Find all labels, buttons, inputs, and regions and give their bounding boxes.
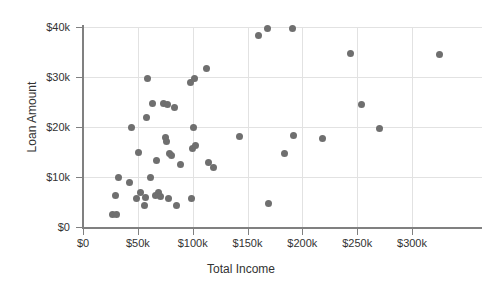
data-point (191, 75, 198, 82)
x-tick-label: $150k (233, 238, 263, 249)
data-point (203, 65, 210, 72)
data-point (358, 101, 365, 108)
gridline-vertical (248, 27, 249, 227)
data-point (265, 200, 272, 207)
y-tick-mark (76, 177, 82, 178)
data-point (115, 174, 122, 181)
data-point (376, 125, 383, 132)
y-axis-spine (82, 25, 84, 229)
y-tick-label: $20k (46, 122, 70, 133)
data-point (157, 193, 164, 200)
data-point (135, 149, 142, 156)
gridline-vertical (302, 27, 303, 227)
data-point (168, 152, 175, 159)
y-tick-label: $30k (46, 72, 70, 83)
data-point (190, 124, 197, 131)
data-point (236, 133, 243, 140)
data-point (143, 114, 150, 121)
data-point (192, 142, 199, 149)
data-point (281, 150, 288, 157)
y-axis-title: Loan Amount (25, 57, 39, 177)
data-point (255, 32, 262, 39)
gridline-vertical (357, 27, 358, 227)
data-point (141, 202, 148, 209)
y-tick-mark (76, 127, 82, 128)
x-tick-label: $100k (178, 238, 208, 249)
data-point (264, 25, 271, 32)
data-point (113, 211, 120, 218)
x-tick-mark (193, 229, 194, 235)
data-point (153, 157, 160, 164)
plot-area (83, 27, 412, 227)
data-point (319, 135, 326, 142)
x-axis-spine (82, 227, 482, 229)
x-tick-label: $50k (126, 238, 150, 249)
data-point (163, 138, 170, 145)
x-tick-mark (302, 229, 303, 235)
data-point (436, 51, 443, 58)
x-tick-mark (412, 229, 413, 235)
y-tick-label: $10k (46, 172, 70, 183)
y-tick-label: $40k (46, 22, 70, 33)
data-point (165, 195, 172, 202)
data-point (290, 132, 297, 139)
y-tick-mark (76, 77, 82, 78)
x-axis-title: Total Income (0, 262, 482, 276)
x-tick-label: $0 (77, 238, 89, 249)
data-point (149, 100, 156, 107)
y-tick-mark (76, 227, 82, 228)
x-tick-label: $300k (397, 238, 427, 249)
data-point (126, 179, 133, 186)
data-point (177, 161, 184, 168)
x-tick-mark (83, 229, 84, 235)
data-point (128, 124, 135, 131)
x-tick-label: $200k (287, 238, 317, 249)
data-point (144, 75, 151, 82)
x-tick-label: $250k (342, 238, 372, 249)
data-point (133, 195, 140, 202)
data-point (347, 50, 354, 57)
gridline-vertical (412, 27, 413, 227)
x-tick-mark (357, 229, 358, 235)
y-tick-label: $0 (58, 222, 70, 233)
data-point (173, 202, 180, 209)
data-point (112, 192, 119, 199)
x-tick-mark (138, 229, 139, 235)
scatter-chart: $0$10k$20k$30k$40k $0$50k$100k$150k$200k… (0, 0, 482, 290)
data-point (164, 101, 171, 108)
data-point (210, 164, 217, 171)
data-point (171, 104, 178, 111)
x-tick-mark (248, 229, 249, 235)
y-tick-mark (76, 27, 82, 28)
data-point (147, 174, 154, 181)
data-point (188, 195, 195, 202)
data-point (289, 25, 296, 32)
data-point (142, 194, 149, 201)
